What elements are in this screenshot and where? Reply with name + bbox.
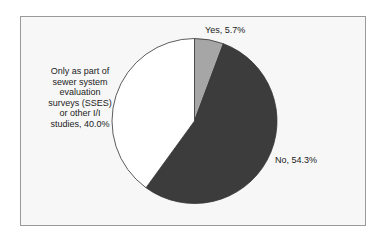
data-label-only-sses: Only as part of sewer system evaluation … (40, 66, 120, 129)
data-label-no: No, 54.3% (275, 155, 317, 166)
data-label-line: studies, 40.0% (40, 119, 120, 130)
data-label-line: evaluation (40, 87, 120, 98)
data-label-line: sewer system (40, 77, 120, 88)
data-label-line: surveys (SSES) (40, 98, 120, 109)
data-label-yes: Yes, 5.7% (205, 25, 245, 36)
data-label-line: or other I/I (40, 108, 120, 119)
data-label-line: Only as part of (40, 66, 120, 77)
